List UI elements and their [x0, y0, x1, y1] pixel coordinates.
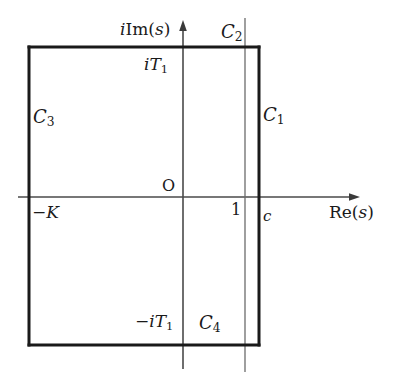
contour-label-c3-base: C — [33, 106, 47, 127]
marker-label-bottom-imaginary: −iT1 — [135, 313, 173, 333]
real-axis-arrowhead — [349, 193, 360, 201]
origin-label: O — [162, 178, 175, 194]
contour-diagram: iIm(s) C2 iT1 C3 C1 O 1 c −K Re(s) −iT1 … — [0, 0, 396, 379]
contour-label-c2-base: C — [221, 21, 235, 42]
contour-label-c4: C4 — [199, 314, 221, 335]
contour-label-c2-subscript: 2 — [235, 30, 243, 44]
contour-label-c1-base: C — [263, 104, 277, 125]
contour-label-c1: C1 — [263, 106, 285, 127]
real-axis-label-prefix: Re( — [329, 202, 359, 222]
marker-label-left-real: −K — [32, 204, 59, 221]
real-axis-label-suffix: ) — [367, 202, 374, 222]
real-axis-label-variable: s — [359, 202, 368, 222]
imaginary-axis-label-suffix: ) — [164, 19, 171, 39]
imaginary-axis-label-variable: s — [155, 19, 164, 39]
marker-bottom-minus: − — [135, 311, 149, 331]
real-axis — [18, 193, 360, 201]
imaginary-axis-label: iIm(s) — [120, 21, 170, 38]
marker-bottom-base: T — [155, 311, 166, 331]
diagram-canvas — [0, 0, 396, 379]
marker-top-subscript: 1 — [161, 62, 168, 76]
contour-label-c3: C3 — [33, 108, 55, 129]
marker-bottom-subscript: 1 — [166, 319, 173, 333]
real-axis-label: Re(s) — [329, 204, 374, 221]
contour-label-c3-subscript: 3 — [47, 115, 55, 129]
imaginary-axis-label-prefix: Im( — [125, 19, 154, 39]
contour-rectangle — [29, 47, 259, 345]
marker-label-abscissa: c — [263, 209, 271, 224]
imaginary-axis — [179, 20, 187, 369]
contour-label-c2: C2 — [221, 23, 243, 44]
marker-left-base: K — [46, 202, 59, 222]
contour-label-c1-subscript: 1 — [277, 113, 285, 127]
contour-label-c4-base: C — [199, 312, 213, 333]
marker-label-unit-real: 1 — [231, 202, 241, 218]
marker-label-top-imaginary: iT1 — [144, 56, 168, 76]
marker-top-base: T — [149, 54, 160, 74]
imaginary-axis-arrowhead — [179, 20, 187, 31]
contour-label-c4-subscript: 4 — [213, 321, 221, 335]
marker-left-minus: − — [32, 202, 46, 222]
